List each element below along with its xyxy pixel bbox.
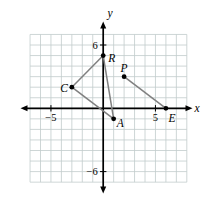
y-tick-label: −6 — [87, 166, 98, 177]
segment-CR — [72, 56, 103, 88]
x-axis-arrow-left — [21, 105, 28, 111]
y-axis-label: y — [107, 7, 114, 20]
point-label-C: C — [60, 82, 68, 94]
x-axis-arrow-right — [186, 105, 193, 111]
point-P — [122, 74, 127, 79]
x-tick-label: −5 — [45, 112, 56, 123]
point-R — [101, 53, 106, 58]
point-label-R: R — [107, 52, 115, 64]
x-tick-label: 5 — [153, 112, 158, 123]
point-label-A: A — [116, 117, 125, 129]
x-axis-label: x — [194, 102, 201, 114]
point-label-P: P — [120, 62, 128, 74]
point-C — [69, 85, 74, 90]
y-axis-arrow-top — [100, 22, 106, 29]
coordinate-plane-svg: −556−6xyRCAPE — [0, 0, 209, 207]
y-tick-label: 6 — [92, 40, 97, 51]
y-axis-arrow-bottom — [100, 187, 106, 194]
point-A — [111, 116, 116, 121]
point-label-E: E — [167, 112, 175, 124]
coordinate-plane-figure: −556−6xyRCAPE — [0, 0, 209, 207]
point-E — [164, 106, 169, 111]
